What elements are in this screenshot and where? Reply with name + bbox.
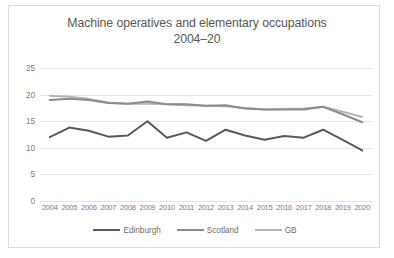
x-axis-tick-2008: 2008: [118, 203, 138, 217]
y-axis-tick-10: 10: [26, 143, 35, 152]
x-axis-tick-2013: 2013: [216, 203, 236, 217]
chart-card: Machine operatives and elementary occupa…: [8, 5, 380, 248]
legend-item-edinburgh[interactable]: Edinburgh: [93, 226, 160, 235]
legend-item-scotland[interactable]: Scotland: [177, 226, 239, 235]
x-axis-tick-2006: 2006: [79, 203, 99, 217]
legend-label-edinburgh: Edinburgh: [123, 226, 160, 235]
gridline-0: [40, 201, 372, 202]
x-axis-tick-2007: 2007: [99, 203, 119, 217]
series-line-edinburgh: [50, 121, 362, 150]
x-axis-tick-2015: 2015: [255, 203, 275, 217]
x-axis-tick-labels: 2004200520062007200820092010201120122013…: [40, 203, 372, 217]
x-axis-tick-2005: 2005: [60, 203, 80, 217]
legend-swatch-edinburgh: [93, 229, 120, 232]
x-axis-tick-2014: 2014: [235, 203, 255, 217]
y-axis-tick-15: 15: [26, 117, 35, 126]
legend-label-scotland: Scotland: [207, 226, 239, 235]
chart-title: Machine operatives and elementary occupa…: [37, 16, 357, 47]
y-axis-tick-25: 25: [26, 64, 35, 73]
legend-item-gb[interactable]: GB: [255, 226, 297, 235]
x-axis-tick-2017: 2017: [294, 203, 314, 217]
chart-title-line-1: Machine operatives and elementary occupa…: [67, 16, 326, 30]
x-axis-tick-2018: 2018: [313, 203, 333, 217]
series-lines: [40, 68, 372, 201]
legend-swatch-gb: [255, 229, 282, 232]
y-axis-tick-0: 0: [30, 197, 35, 206]
plot-area: 2520151050: [40, 68, 372, 201]
x-axis-tick-2019: 2019: [333, 203, 353, 217]
x-axis-tick-2016: 2016: [274, 203, 294, 217]
y-axis-tick-5: 5: [30, 170, 35, 179]
legend-label-gb: GB: [285, 226, 297, 235]
x-axis-tick-2004: 2004: [40, 203, 60, 217]
x-axis-tick-2009: 2009: [138, 203, 158, 217]
x-axis-tick-2012: 2012: [196, 203, 216, 217]
chart-title-line-2: 2004–20: [37, 32, 357, 48]
legend-swatch-scotland: [177, 229, 204, 232]
series-line-scotland: [50, 99, 362, 122]
x-axis-tick-2010: 2010: [157, 203, 177, 217]
x-axis-tick-2011: 2011: [177, 203, 197, 217]
x-axis-tick-2020: 2020: [353, 203, 373, 217]
y-axis-tick-20: 20: [26, 90, 35, 99]
chart-legend: EdinburghScotlandGB: [9, 222, 381, 238]
